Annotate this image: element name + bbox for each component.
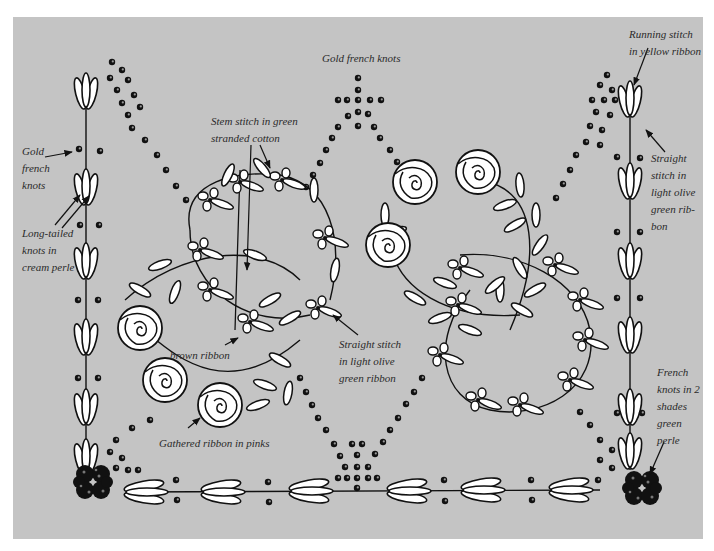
gold-french-knot-trellis (107, 59, 618, 491)
label-stem-stitch: Stem stitch in green stranded cotton (211, 113, 298, 147)
left-border-stitch (72, 73, 103, 476)
label-gathered-ribbon: Gathered ribbon in pinks (159, 435, 270, 452)
label-straight-stitch-right: Straight stitch in light olive green rib… (651, 150, 695, 235)
embroidery-pattern-art (0, 0, 714, 551)
label-gold-french-knots-top: Gold french knots (322, 50, 400, 67)
french-knot-cluster-left (73, 465, 113, 499)
label-straight-stitch-center: Straight stitch in light olive green rib… (339, 336, 401, 387)
right-border-stitch (614, 81, 645, 470)
right-wreath (366, 150, 609, 416)
french-knot-cluster-right (622, 471, 662, 505)
bottom-border-stitch (123, 476, 600, 507)
label-french-knots-green: French knots in 2 shades green perle (657, 364, 700, 449)
label-gold-french-knots-left: Gold french knots (22, 143, 50, 194)
left-wreath (118, 156, 349, 427)
label-brown-ribbon: brown ribbon (170, 347, 230, 364)
label-long-tailed-knots: Long-tailed knots in cream perle (22, 225, 74, 276)
label-running-stitch: Running stitch in yellow ribbon (629, 26, 701, 60)
